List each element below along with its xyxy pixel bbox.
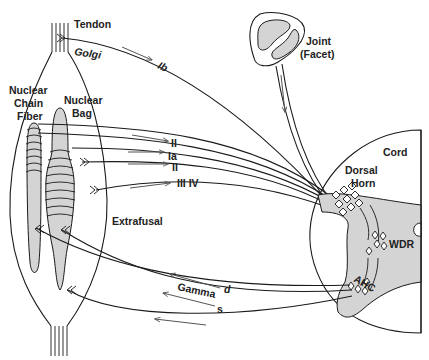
- label-fiber-iii-iv: III IV: [177, 177, 199, 189]
- label-nuclear-chain-2: Chain: [14, 97, 43, 109]
- joint-facet: [250, 13, 305, 66]
- nuclear-chain-fiber: [27, 123, 41, 273]
- alpha-arrow: [155, 319, 206, 325]
- label-joint-1: Joint: [306, 35, 332, 47]
- label-fiber-ii-lower: II: [172, 161, 178, 173]
- joint-nerve: [276, 66, 330, 205]
- label-gamma-d: d: [224, 283, 231, 295]
- neuromuscular-pathway-diagram: Tendon Golgi Ib Nuclear Chain Fiber Nucl…: [0, 0, 429, 360]
- label-extrafusal: Extrafusal: [112, 215, 163, 227]
- label-golgi: Golgi: [74, 45, 103, 61]
- tendon-top: [52, 23, 68, 52]
- label-wdr: WDR: [389, 238, 414, 250]
- tendon-bottom: [51, 326, 67, 356]
- label-nuclear-bag-1: Nuclear: [64, 94, 103, 106]
- label-nuclear-bag-2: Bag: [72, 107, 92, 119]
- label-dorsal-1: Dorsal: [345, 164, 378, 176]
- label-gamma-s: s: [217, 303, 223, 315]
- label-dorsal-2: Horn: [351, 177, 376, 189]
- label-gamma: Gamma: [177, 280, 217, 300]
- label-nuclear-chain-1: Nuclear: [9, 84, 48, 96]
- afferent-fibers: [38, 124, 330, 208]
- label-nuclear-chain-3: Fiber: [17, 110, 43, 122]
- label-fiber-ii-upper: II: [171, 137, 177, 149]
- ib-arrow: [122, 47, 152, 60]
- gray-matter: [318, 194, 421, 317]
- label-tendon: Tendon: [74, 18, 111, 30]
- label-joint-2: (Facet): [300, 48, 334, 60]
- label-cord: Cord: [383, 146, 408, 158]
